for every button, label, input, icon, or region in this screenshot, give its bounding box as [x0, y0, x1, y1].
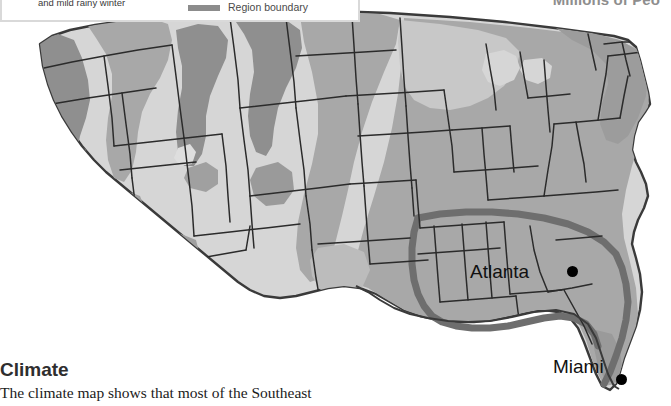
- legend-region-boundary-label: Region boundary: [228, 2, 308, 13]
- city-marker-miami-dot: [616, 374, 627, 385]
- region-boundary-swatch-icon: [188, 5, 220, 11]
- map-legend-box: and mild rainy winter Region boundary: [0, 0, 360, 22]
- article-text-block: Climate The climate map shows that most …: [0, 359, 330, 402]
- section-title-millions-of-people: Millions of Peo: [553, 0, 660, 8]
- city-marker-atlanta-dot: [567, 266, 578, 277]
- climate-map-figure: Atlanta Miami and mild rainy winter Regi…: [0, 0, 671, 406]
- page-root: Atlanta Miami and mild rainy winter Regi…: [0, 0, 671, 406]
- article-heading-climate: Climate: [0, 359, 330, 381]
- legend-climate-zone-label: and mild rainy winter: [38, 0, 125, 8]
- article-paragraph: The climate map shows that most of the S…: [0, 383, 330, 402]
- legend-entry-region-boundary: Region boundary: [188, 2, 308, 13]
- city-label-miami: Miami: [553, 356, 604, 378]
- legend-entry-climate-zone: and mild rainy winter: [38, 0, 188, 10]
- city-label-atlanta: Atlanta: [470, 261, 529, 283]
- us-climate-map-svg: [0, 0, 671, 406]
